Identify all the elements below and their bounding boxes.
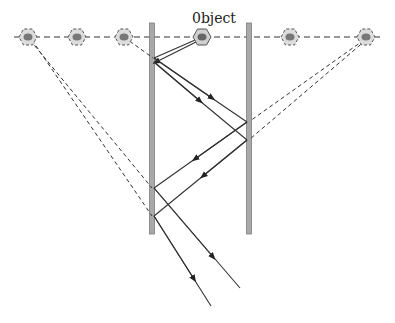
image-4 bbox=[281, 29, 299, 45]
reflection-diagram: 0bject bbox=[0, 0, 395, 323]
object bbox=[193, 29, 211, 45]
object-label: 0bject bbox=[192, 10, 236, 26]
image-3 bbox=[115, 29, 133, 45]
real-rays bbox=[154, 37, 247, 306]
left-mirror bbox=[150, 23, 155, 234]
virtual-rays bbox=[30, 37, 366, 216]
right-mirror bbox=[247, 23, 252, 234]
image-2 bbox=[68, 29, 86, 45]
image-5 bbox=[357, 29, 375, 45]
